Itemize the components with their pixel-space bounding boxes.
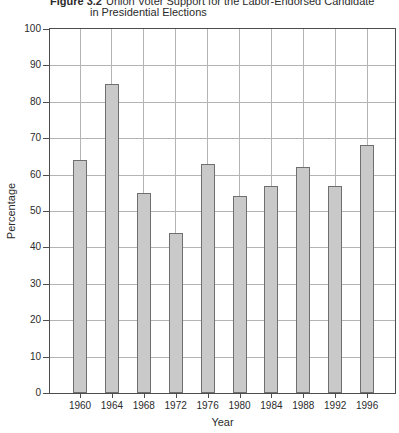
bar-1992 xyxy=(328,186,342,393)
y-tick-label-100: 100 xyxy=(15,23,41,35)
y-tick-label-90: 90 xyxy=(15,59,41,71)
x-tick-label-1976: 1976 xyxy=(192,400,224,412)
gridline-h-90 xyxy=(50,65,395,66)
x-tick-1972 xyxy=(176,394,177,398)
y-tick-50 xyxy=(43,211,49,212)
x-tick-label-1984: 1984 xyxy=(255,400,287,412)
x-tick-label-1992: 1992 xyxy=(319,400,351,412)
figure-title-line2: in Presidential Elections xyxy=(90,7,374,18)
x-tick-1976 xyxy=(208,394,209,398)
y-tick-label-40: 40 xyxy=(15,241,41,253)
x-tick-label-1988: 1988 xyxy=(287,400,319,412)
x-tick-label-1960: 1960 xyxy=(64,400,96,412)
y-tick-0 xyxy=(43,393,49,394)
gridline-h-10 xyxy=(50,357,395,358)
bar-1972 xyxy=(169,233,183,393)
gridline-h-80 xyxy=(50,102,395,103)
y-tick-label-50: 50 xyxy=(15,205,41,217)
x-tick-1992 xyxy=(335,394,336,398)
gridline-h-70 xyxy=(50,138,395,139)
bar-1968 xyxy=(137,193,151,393)
bar-1984 xyxy=(264,186,278,393)
x-tick-1968 xyxy=(144,394,145,398)
y-tick-label-20: 20 xyxy=(15,314,41,326)
bar-1976 xyxy=(201,164,215,393)
gridline-h-40 xyxy=(50,247,395,248)
y-tick-80 xyxy=(43,102,49,103)
x-tick-label-1968: 1968 xyxy=(128,400,160,412)
figure-title: Figure 3.2Union Voter Support for the La… xyxy=(50,0,374,18)
y-tick-label-80: 80 xyxy=(15,96,41,108)
y-tick-70 xyxy=(43,138,49,139)
y-tick-30 xyxy=(43,284,49,285)
x-tick-1964 xyxy=(112,394,113,398)
bar-1964 xyxy=(105,84,119,393)
x-axis-label: Year xyxy=(49,416,396,428)
x-tick-label-1964: 1964 xyxy=(96,400,128,412)
x-tick-1984 xyxy=(271,394,272,398)
plot-area xyxy=(49,28,396,394)
x-tick-label-1972: 1972 xyxy=(160,400,192,412)
x-tick-1960 xyxy=(80,394,81,398)
gridline-h-30 xyxy=(50,284,395,285)
y-tick-90 xyxy=(43,65,49,66)
x-tick-label-1980: 1980 xyxy=(224,400,256,412)
bar-1996 xyxy=(360,145,374,393)
x-tick-1996 xyxy=(367,394,368,398)
y-tick-label-30: 30 xyxy=(15,278,41,290)
x-tick-1988 xyxy=(303,394,304,398)
bar-1960 xyxy=(73,160,87,393)
bar-1980 xyxy=(233,196,247,393)
gridline-h-50 xyxy=(50,211,395,212)
y-tick-label-70: 70 xyxy=(15,132,41,144)
x-tick-label-1996: 1996 xyxy=(351,400,383,412)
y-tick-label-0: 0 xyxy=(15,387,41,399)
x-tick-1980 xyxy=(240,394,241,398)
gridline-h-20 xyxy=(50,320,395,321)
y-tick-40 xyxy=(43,247,49,248)
y-tick-60 xyxy=(43,175,49,176)
y-tick-10 xyxy=(43,357,49,358)
y-tick-label-10: 10 xyxy=(15,351,41,363)
y-tick-label-60: 60 xyxy=(15,169,41,181)
y-tick-100 xyxy=(43,29,49,30)
y-tick-20 xyxy=(43,320,49,321)
figure: Figure 3.2Union Voter Support for the La… xyxy=(0,0,399,433)
bar-1988 xyxy=(296,167,310,393)
gridline-h-60 xyxy=(50,175,395,176)
